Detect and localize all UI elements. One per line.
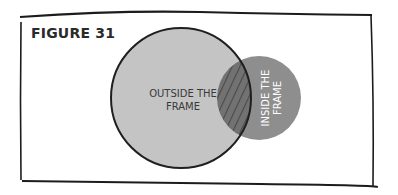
figure-frame: OUTSIDE THE FRAME INSIDE THE FRAME FIGUR… — [0, 0, 398, 195]
frame-right-border — [371, 15, 373, 186]
inside-label-line2: FRAME — [272, 81, 283, 115]
outside-label-line2: FRAME — [166, 101, 200, 112]
figure-title: FIGURE 31 — [31, 25, 115, 41]
frame-bottom-border — [22, 181, 378, 187]
frame-left-border — [21, 22, 22, 180]
inside-label-line1: INSIDE THE — [260, 70, 271, 127]
frame-top-border — [20, 12, 372, 17]
outside-label-line1: OUTSIDE THE — [149, 88, 217, 99]
